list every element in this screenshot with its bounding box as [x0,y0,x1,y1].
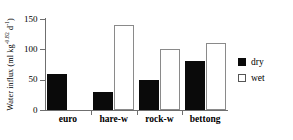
bar-bettong-dry [185,61,205,110]
x-axis-label-bettong: bettong [165,114,245,124]
bar-rock-w-dry [139,80,159,110]
bar-hare-w-wet [114,25,134,110]
bar-bettong-wet [206,43,226,110]
y-axis-title: Water influx (ml kg-0.82 d-1) [6,3,15,127]
legend-label: wet [251,73,265,83]
y-tick: 100 [40,49,45,50]
filled-square-icon [238,58,246,66]
y-tick-label: 150 [24,14,38,24]
y-tick: 50 [40,80,45,81]
bar-euro-dry [47,74,67,110]
y-axis-title-container: Water influx (ml kg-0.82 d-1) [0,0,18,140]
y-tick: 0 [40,110,45,111]
bar-hare-w-dry [93,92,113,110]
bar-chart-figure: Water influx (ml kg-0.82 d-1) 050100150 … [0,0,293,140]
bar-rock-w-wet [160,49,180,110]
legend-item-wet: wet [238,70,290,86]
y-tick-label: 100 [24,44,38,54]
legend-item-dry: dry [238,54,290,70]
legend: drywet [238,54,290,86]
open-square-icon [238,74,246,82]
y-tick: 150 [40,19,45,20]
y-axis-line [45,18,46,110]
plot-area: 050100150 [45,19,228,110]
y-tick-label: 50 [29,74,38,84]
y-tick-label: 0 [33,105,38,115]
legend-label: dry [251,57,264,67]
